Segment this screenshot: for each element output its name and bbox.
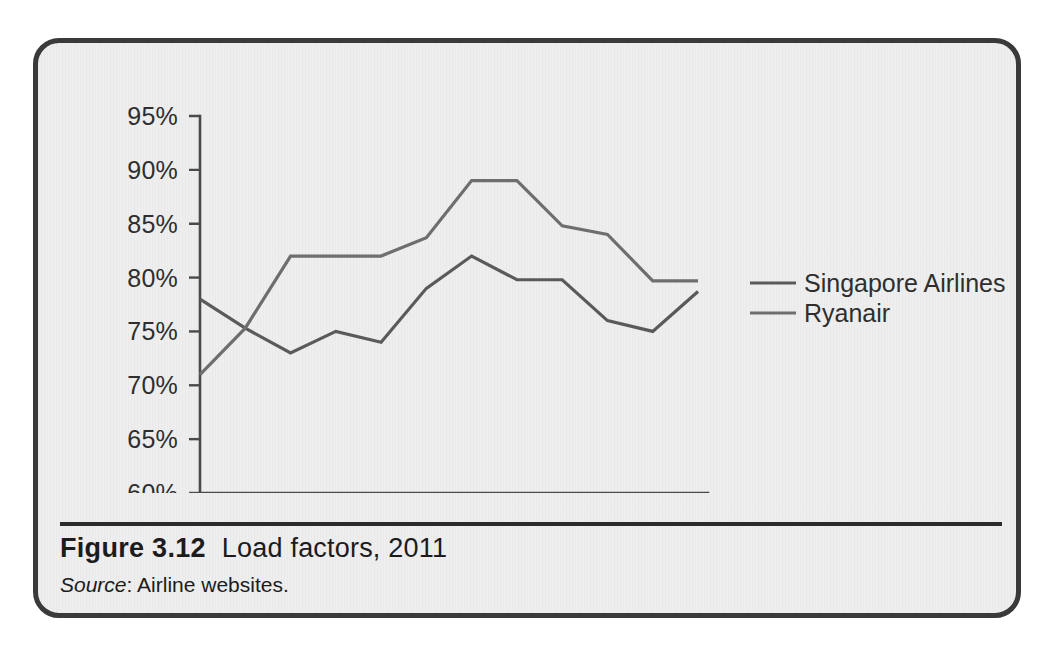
series-line-singapore-airlines (200, 256, 698, 353)
y-tick-label: 90% (127, 156, 178, 184)
caption-block: Figure 3.12Load factors, 2011 Source: Ai… (60, 532, 990, 597)
figure-source: Source: Airline websites. (60, 573, 990, 597)
legend-label-0: Singapore Airlines (804, 269, 1006, 297)
y-tick-label: 60% (127, 479, 178, 493)
figure-number: Figure 3.12 (60, 533, 206, 563)
legend-label-1: Ryanair (804, 299, 890, 327)
y-tick-label: 70% (127, 371, 178, 399)
y-tick-label: 80% (127, 264, 178, 292)
caption-divider-rule (60, 522, 1002, 526)
figure-title: Load factors, 2011 (222, 533, 447, 563)
y-tick-label: 85% (127, 210, 178, 238)
chart-plot-area: 60%65%70%75%80%85%90%95%JanFebMarAprMayJ… (38, 43, 1016, 493)
figure-frame: 60%65%70%75%80%85%90%95%JanFebMarAprMayJ… (33, 38, 1021, 618)
y-tick-label: 65% (127, 425, 178, 453)
line-chart-svg: 60%65%70%75%80%85%90%95%JanFebMarAprMayJ… (38, 43, 1016, 493)
source-label: Source (60, 573, 127, 596)
y-tick-label: 75% (127, 317, 178, 345)
y-tick-label: 95% (127, 102, 178, 130)
figure-page: 60%65%70%75%80%85%90%95%JanFebMarAprMayJ… (0, 0, 1051, 654)
figure-caption: Figure 3.12Load factors, 2011 (60, 532, 990, 566)
source-text: : Airline websites. (127, 573, 289, 596)
